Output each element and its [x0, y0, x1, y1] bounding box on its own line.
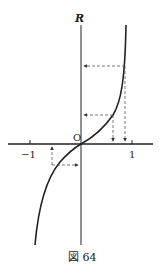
- tick-label-pos1: 1: [129, 150, 135, 160]
- origin-label: O: [73, 133, 81, 143]
- tick-label-neg1: −1: [21, 150, 36, 160]
- y-axis-label: R: [75, 13, 84, 24]
- figure: R O −1 1 図 64: [0, 0, 165, 280]
- diagram-canvas: [0, 0, 165, 280]
- figure-caption: 図 64: [68, 252, 97, 263]
